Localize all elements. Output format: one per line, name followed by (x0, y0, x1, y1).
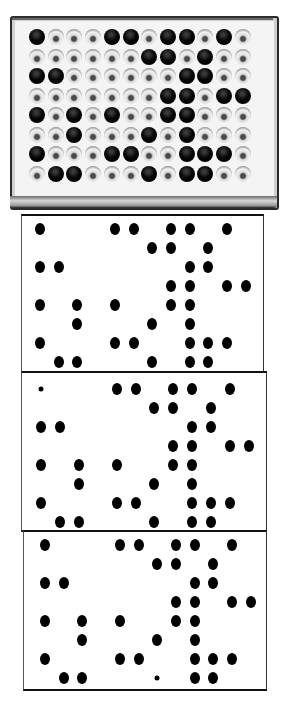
well-positive (197, 146, 213, 162)
well-negative (85, 68, 101, 84)
blot-dot (225, 440, 235, 452)
well-positive (66, 107, 82, 123)
blot-dot (129, 337, 139, 349)
well-negative (123, 88, 139, 104)
blot-dot (227, 653, 237, 665)
blot-dot (166, 299, 176, 311)
plate-lid-edge (12, 17, 273, 20)
blot-dot (222, 337, 232, 349)
well-positive (29, 29, 45, 45)
blot-dot (190, 672, 200, 684)
blot-dot (222, 223, 232, 235)
blot-dot (36, 459, 46, 471)
well-positive (141, 49, 157, 65)
blot-dot (227, 596, 237, 608)
blot-dot (203, 242, 213, 254)
blot-dot (227, 539, 237, 551)
well-negative (66, 146, 82, 162)
blot-dot (129, 223, 139, 235)
well-positive (179, 68, 195, 84)
blot-dot (72, 318, 82, 330)
well-negative (235, 49, 251, 65)
well-positive (104, 29, 120, 45)
blot-dot (54, 261, 64, 273)
blot-dot (206, 516, 216, 528)
blot-dot (36, 497, 46, 509)
blot-dot (206, 497, 216, 509)
blot-dot (187, 421, 197, 433)
well-negative (104, 88, 120, 104)
blot-dot (171, 539, 181, 551)
well-positive (123, 29, 139, 45)
blot-dot (187, 440, 197, 452)
blot-dot (203, 337, 213, 349)
well-negative (235, 127, 251, 143)
blot-dot (35, 337, 45, 349)
well-positive (216, 29, 232, 45)
blot-dot (206, 421, 216, 433)
blot-dot (35, 223, 45, 235)
well-negative (85, 127, 101, 143)
blot-dot (185, 337, 195, 349)
blot-dot (112, 459, 122, 471)
blot-dot (152, 634, 162, 646)
well-negative (235, 146, 251, 162)
dot-blot-1 (21, 214, 264, 375)
blot-dot (149, 478, 159, 490)
well-negative (48, 49, 64, 65)
well-negative (141, 29, 157, 45)
blot-dot (77, 634, 87, 646)
blot-dot (185, 356, 195, 368)
blot-dot (147, 318, 157, 330)
well-negative (104, 68, 120, 84)
well-positive (29, 107, 45, 123)
blot-dot (203, 261, 213, 273)
blot-dot (131, 383, 141, 395)
well-negative (123, 68, 139, 84)
blot-dot (187, 383, 197, 395)
well-positive (160, 49, 176, 65)
well-negative (123, 127, 139, 143)
blot-dot (208, 577, 218, 589)
well-negative (235, 107, 251, 123)
well-positive (104, 146, 120, 162)
blot-dot (110, 299, 120, 311)
well-negative (216, 49, 232, 65)
well-negative (216, 107, 232, 123)
blot-dot (203, 356, 213, 368)
well-positive (160, 29, 176, 45)
blot-dot (168, 383, 178, 395)
well-positive (179, 127, 195, 143)
blot-dot (190, 539, 200, 551)
blot-dot (208, 653, 218, 665)
blot-dot (40, 615, 50, 627)
blot-dot (55, 516, 65, 528)
well-positive (141, 166, 157, 182)
well-negative (66, 68, 82, 84)
well-negative (85, 166, 101, 182)
blot-dot (112, 497, 122, 509)
well-negative (85, 88, 101, 104)
well-positive (66, 166, 82, 182)
well-negative (197, 127, 213, 143)
blot-dot (40, 539, 50, 551)
blot-dot (168, 440, 178, 452)
blot-dot (149, 402, 159, 414)
blot-dot (208, 558, 218, 570)
blot-dot (147, 356, 157, 368)
blot-dot (134, 653, 144, 665)
well-negative (141, 107, 157, 123)
blot-dot (110, 337, 120, 349)
blot-dot (155, 676, 160, 681)
well-negative (123, 49, 139, 65)
blot-dot (185, 280, 195, 292)
blot-dot (185, 261, 195, 273)
blot-dot (35, 261, 45, 273)
well-negative (48, 29, 64, 45)
blot-dot (185, 299, 195, 311)
blot-dot (190, 615, 200, 627)
well-negative (104, 127, 120, 143)
blot-dot (168, 459, 178, 471)
blot-dot (241, 280, 251, 292)
blot-dot (131, 497, 141, 509)
